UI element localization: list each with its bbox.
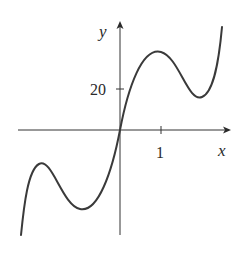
y-tick-label-20: 20 [90, 81, 106, 98]
function-graph: y x 1 20 [0, 0, 244, 256]
x-tick-label-1: 1 [156, 144, 164, 161]
y-axis-label: y [97, 22, 107, 41]
x-axis-label: x [217, 141, 226, 160]
function-curve [21, 27, 222, 235]
